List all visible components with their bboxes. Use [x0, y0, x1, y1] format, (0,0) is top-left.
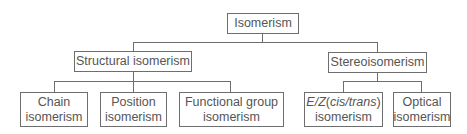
node-label-line2: isomerism: [315, 110, 372, 125]
node-label-line1: Optical: [403, 95, 442, 110]
connector-to-chain: [54, 81, 55, 92]
connector-root-horizontal: [133, 42, 378, 43]
node-label-line1: Position: [111, 95, 155, 110]
node-structural-isomerism: Structural isomerism: [74, 51, 192, 72]
node-label-line1: Chain: [38, 95, 71, 110]
node-label: Structural isomerism: [76, 54, 190, 69]
connector-to-ez: [343, 81, 344, 92]
node-label-line2: isomerism: [203, 110, 260, 125]
node-chain-isomerism: Chain isomerism: [20, 92, 88, 127]
node-label: Stereoisomerism: [331, 55, 425, 70]
node-label-line1: Functional group: [185, 95, 278, 110]
node-label-line2: isomerism: [394, 110, 451, 125]
node-stereoisomerism: Stereoisomerism: [328, 52, 427, 73]
node-label-line2: isomerism: [105, 110, 162, 125]
connector-structural-horizontal: [54, 81, 231, 82]
node-position-isomerism: Position isomerism: [100, 92, 167, 127]
node-label-line1: E/Z(cis/trans): [306, 95, 380, 110]
connector-stereo-horizontal: [343, 81, 422, 82]
connector-root-down: [262, 33, 263, 42]
node-label-line2: isomerism: [26, 110, 83, 125]
connector-to-optical: [421, 81, 422, 92]
connector-to-stereo: [377, 42, 378, 52]
node-label: Isomerism: [234, 16, 292, 31]
node-isomerism: Isomerism: [227, 13, 299, 34]
connector-structural-down: [133, 71, 134, 81]
connector-to-position: [133, 81, 134, 92]
connector-to-functional: [230, 81, 231, 92]
node-optical-isomerism: Optical isomerism: [393, 92, 451, 127]
node-functional-group-isomerism: Functional group isomerism: [179, 92, 284, 127]
node-ez-cis-trans-isomerism: E/Z(cis/trans) isomerism: [304, 92, 383, 127]
connector-to-structural: [133, 42, 134, 51]
connector-stereo-down: [377, 72, 378, 81]
